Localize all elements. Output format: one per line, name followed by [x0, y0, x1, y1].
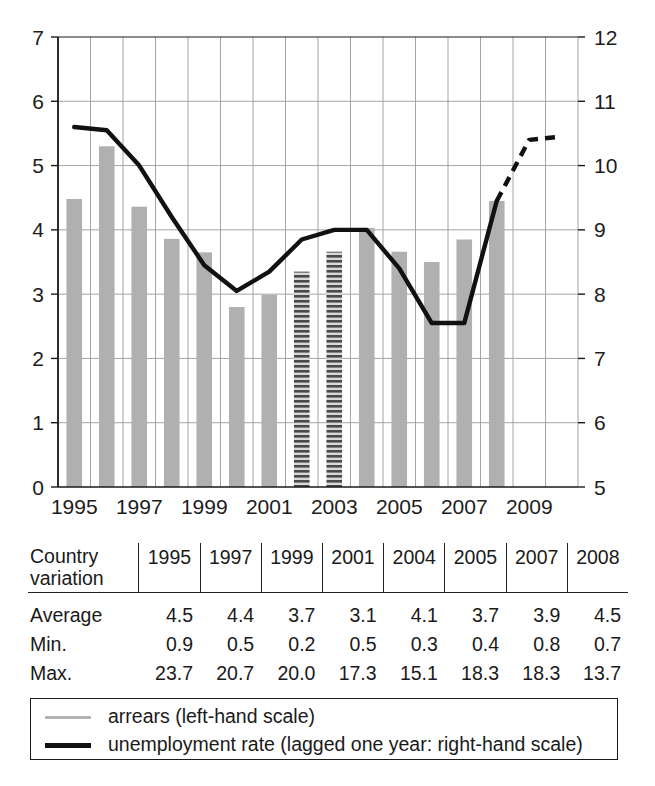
svg-text:4: 4 [32, 218, 44, 241]
svg-text:7: 7 [594, 347, 606, 370]
chart-legend: arrears (left-hand scale) unemployment r… [30, 698, 618, 760]
svg-text:2001: 2001 [246, 495, 293, 518]
svg-text:2003: 2003 [311, 495, 358, 518]
left-axis-tick-labels: 01234567 [32, 26, 44, 499]
right-axis-tick-labels: 56789101112 [594, 26, 617, 499]
svg-text:0: 0 [32, 476, 44, 499]
table-cell: 0.8 [506, 627, 567, 656]
corner-label-line2: variation [30, 567, 104, 589]
table-row-label: Average [28, 593, 139, 628]
table-cell: 13.7 [567, 656, 628, 685]
country-variation-table: Country variation 1995 1997 1999 2001 20… [28, 543, 628, 685]
table-corner-label: Country variation [28, 543, 139, 593]
table-row: Max. 23.7 20.7 20.0 17.3 15.1 18.3 18.3 … [28, 656, 628, 685]
table-cell: 0.9 [139, 627, 200, 656]
svg-text:1: 1 [32, 411, 44, 434]
table-cell: 3.7 [445, 593, 506, 628]
legend-label: arrears (left-hand scale) [108, 707, 315, 727]
table-col-header: 1999 [261, 543, 322, 593]
table-row: Average 4.5 4.4 3.7 3.1 4.1 3.7 3.9 4.5 [28, 593, 628, 628]
svg-text:12: 12 [594, 26, 617, 49]
table-cell: 3.9 [506, 593, 567, 628]
svg-text:9: 9 [594, 218, 606, 241]
table-col-header: 2004 [384, 543, 445, 593]
table-cell: 0.7 [567, 627, 628, 656]
table-col-header: 2001 [322, 543, 383, 593]
table-col-header: 2007 [506, 543, 567, 593]
arrears-unemployment-chart: 01234567 56789101112 1995199719992001200… [0, 0, 655, 520]
svg-text:2009: 2009 [506, 495, 553, 518]
table-row: Min. 0.9 0.5 0.2 0.5 0.3 0.4 0.8 0.7 [28, 627, 628, 656]
x-axis-tick-labels: 19951997199920012003200520072009 [51, 495, 553, 518]
svg-text:2007: 2007 [441, 495, 488, 518]
table-cell: 20.7 [200, 656, 261, 685]
figure-root: 01234567 56789101112 1995199719992001200… [0, 0, 655, 786]
table-col-header: 1997 [200, 543, 261, 593]
table-row-label: Max. [28, 656, 139, 685]
table-cell: 4.4 [200, 593, 261, 628]
legend-item-arrears: arrears (left-hand scale) [31, 703, 617, 731]
line-swatch-icon [45, 738, 91, 752]
svg-text:1999: 1999 [181, 495, 228, 518]
svg-text:11: 11 [594, 90, 616, 113]
chart-area: 01234567 56789101112 1995199719992001200… [0, 0, 655, 520]
svg-text:5: 5 [32, 154, 44, 177]
svg-text:6: 6 [594, 411, 606, 434]
table-cell: 17.3 [322, 656, 383, 685]
table-header-row: Country variation 1995 1997 1999 2001 20… [28, 543, 628, 593]
table-cell: 18.3 [506, 656, 567, 685]
bar-swatch-icon [45, 710, 91, 724]
table-cell: 23.7 [139, 656, 200, 685]
table-cell: 0.5 [200, 627, 261, 656]
table-col-header: 2005 [445, 543, 506, 593]
table-cell: 0.3 [384, 627, 445, 656]
table-cell: 0.5 [322, 627, 383, 656]
table-row-label: Min. [28, 627, 139, 656]
legend-label: unemployment rate (lagged one year: righ… [108, 735, 583, 755]
table-cell: 0.4 [445, 627, 506, 656]
svg-text:6: 6 [32, 90, 44, 113]
table-cell: 15.1 [384, 656, 445, 685]
table-cell: 3.7 [261, 593, 322, 628]
table-cell: 0.2 [261, 627, 322, 656]
legend-item-unemployment: unemployment rate (lagged one year: righ… [31, 731, 617, 759]
line-series-unemployment-dashed [497, 137, 562, 201]
svg-text:1995: 1995 [51, 495, 98, 518]
svg-text:1997: 1997 [116, 495, 163, 518]
svg-text:2005: 2005 [376, 495, 423, 518]
table-cell: 4.5 [139, 593, 200, 628]
table-cell: 4.1 [384, 593, 445, 628]
table-col-header: 2008 [567, 543, 628, 593]
svg-text:5: 5 [594, 476, 606, 499]
table-cell: 3.1 [322, 593, 383, 628]
table-cell: 4.5 [567, 593, 628, 628]
svg-text:8: 8 [594, 283, 606, 306]
svg-text:10: 10 [594, 154, 617, 177]
table-col-header: 1995 [139, 543, 200, 593]
table-cell: 20.0 [261, 656, 322, 685]
svg-text:7: 7 [32, 26, 44, 49]
svg-text:2: 2 [32, 347, 44, 370]
svg-text:3: 3 [32, 283, 44, 306]
table-cell: 18.3 [445, 656, 506, 685]
corner-label-line1: Country [30, 545, 98, 567]
